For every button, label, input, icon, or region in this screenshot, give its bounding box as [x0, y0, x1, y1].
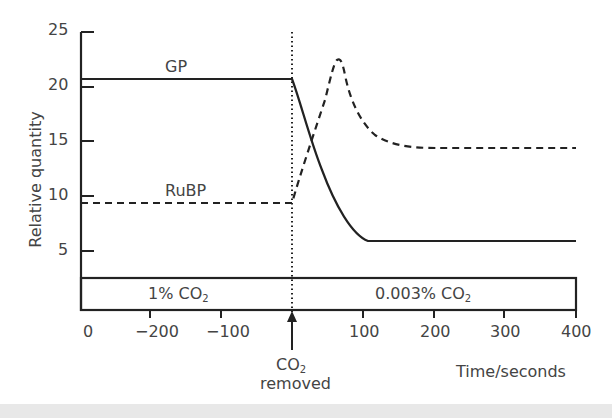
x-tick-label: 300	[490, 322, 521, 341]
rubp-line	[81, 59, 576, 203]
y-axis-label: Relative quantity	[26, 100, 45, 260]
x-tick-label: 200	[420, 322, 451, 341]
gp-line	[81, 79, 576, 241]
y-tick-label: 15	[48, 130, 68, 149]
y-ticks	[81, 32, 94, 251]
x-tick-label: −200	[135, 322, 179, 341]
co2-removed-label-2: removed	[260, 374, 331, 393]
x-tick-label: 400	[561, 322, 592, 341]
y-tick-label: 5	[58, 240, 68, 259]
co2-removed-label: CO2	[276, 355, 306, 375]
rubp-label: RuBP	[165, 181, 206, 200]
band-left-label: 1% CO2	[148, 284, 209, 304]
band-right-label: 0.003% CO2	[375, 284, 471, 304]
x-tick-label: −100	[206, 322, 250, 341]
y-tick-label: 10	[48, 185, 68, 204]
x-ticks	[150, 310, 576, 318]
x-axis-label: Time/seconds	[456, 362, 566, 381]
y-tick-label: 20	[48, 75, 68, 94]
y-tick-label: 25	[48, 20, 68, 39]
x-tick-label: 0	[83, 322, 93, 341]
gp-label: GP	[165, 57, 187, 76]
bottom-strip	[0, 404, 612, 418]
x-tick-label: 100	[349, 322, 380, 341]
